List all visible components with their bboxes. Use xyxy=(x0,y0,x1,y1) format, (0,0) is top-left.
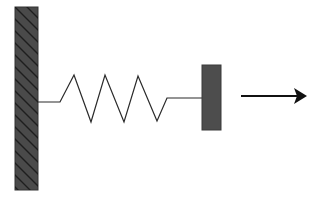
mass-block xyxy=(202,65,221,130)
spring xyxy=(38,75,202,122)
diagram-canvas xyxy=(0,0,317,204)
arrow-right-icon xyxy=(241,88,307,104)
spring-mass-diagram xyxy=(0,0,317,204)
